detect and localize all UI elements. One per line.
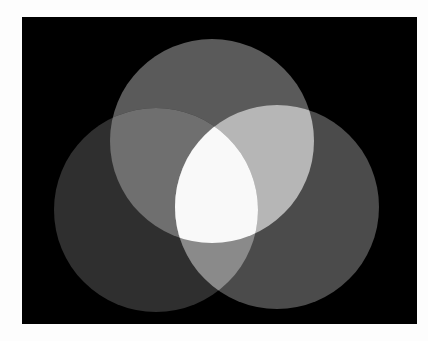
overlapping-circles-figure [0,0,428,341]
venn-image [0,0,428,341]
